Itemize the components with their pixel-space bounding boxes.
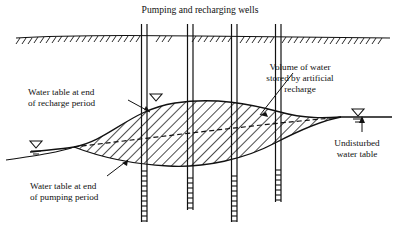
undisturbed-label-leader [359,116,365,132]
well-2-screen [188,178,194,208]
label-recharge-period-line1: Water table at end [28,87,95,97]
label-undisturbed-line1: Undisturbed [334,138,380,148]
well-4-screen [276,170,282,200]
label-stored-volume-line2: stored by artificial [266,73,334,83]
water-level-triangle-icon [30,141,42,148]
label-stored-volume-line3: recharge [284,84,315,94]
ground-surface [16,35,390,44]
label-recharge-period-line2: of recharge period [28,98,96,108]
well-1-screen [142,171,148,221]
label-stored-volume: Volume of water stored by artificial rec… [266,62,334,94]
water-level-symbol-well [150,94,162,101]
label-stored-volume-line1: Volume of water [269,62,330,72]
label-pumping-period: Water table at end of pumping period [30,181,99,202]
figure-title: Pumping and recharging wells [142,4,259,15]
water-level-triangle-icon [150,94,162,101]
label-pumping-period-line1: Water table at end [30,181,97,191]
label-pumping-period-line2: of pumping period [30,192,99,202]
diagram-canvas: Pumping and recharging wells [0,0,400,227]
label-undisturbed-water-table: Undisturbed water table [334,138,380,159]
water-level-triangle-icon [352,109,364,116]
label-recharge-period: Water table at end of recharge period [28,87,96,108]
groundwater-recharge-diagram: Pumping and recharging wells [0,0,400,227]
well-3-screen [232,176,238,221]
pumping-label-leader [107,160,128,176]
label-undisturbed-line2: water table [337,149,378,159]
